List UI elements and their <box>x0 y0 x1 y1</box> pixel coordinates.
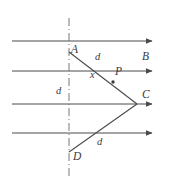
segment-dc <box>69 104 137 152</box>
label-b: B <box>142 51 149 63</box>
label-c: C <box>142 89 150 101</box>
segment-ac <box>69 52 137 104</box>
point-p-marker <box>111 80 114 83</box>
label-d-upper: d <box>95 52 100 63</box>
label-d-lower: d <box>97 137 102 148</box>
label-d-left: d <box>56 86 61 97</box>
label-p: P <box>115 66 122 78</box>
label-a: A <box>71 44 78 56</box>
geometry-figure: A B C D P d d d x <box>0 0 170 186</box>
label-d-point: D <box>73 151 81 163</box>
label-x: x <box>90 70 95 81</box>
